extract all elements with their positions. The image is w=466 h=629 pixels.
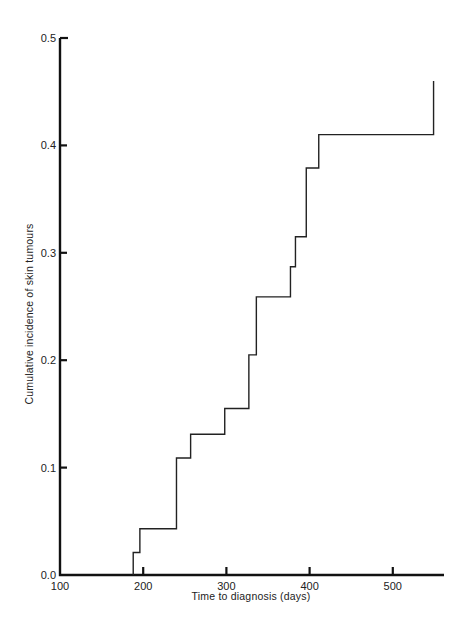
x-tick-label: 500 bbox=[384, 580, 402, 592]
y-axis-label: Cumulative incidence of skin tumours bbox=[23, 223, 35, 404]
y-tick-label: 0.4 bbox=[41, 139, 56, 151]
y-tick-label: 0.1 bbox=[41, 462, 56, 474]
cumulative-incidence-step-line bbox=[133, 81, 433, 575]
x-tick-label: 200 bbox=[134, 580, 152, 592]
plot-area: 0.00.10.20.30.40.5100200300400500 bbox=[41, 32, 444, 592]
x-tick-label: 100 bbox=[51, 580, 69, 592]
y-tick-label: 0.3 bbox=[41, 247, 56, 259]
axes bbox=[60, 38, 444, 575]
y-tick-label: 0.2 bbox=[41, 354, 56, 366]
y-tick-label: 0.5 bbox=[41, 32, 56, 44]
chart: 0.00.10.20.30.40.5100200300400500 Cumula… bbox=[0, 0, 466, 629]
x-axis-label: Time to diagnosis (days) bbox=[192, 590, 311, 602]
